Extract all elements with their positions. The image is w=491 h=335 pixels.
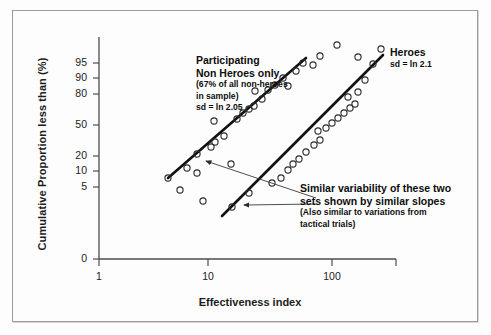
data-point	[335, 115, 341, 121]
annotation-similar-line3: (Also similar to variations from	[300, 207, 451, 219]
annotation-similar-line4: tactical trials)	[300, 219, 451, 231]
y-tick-label-90: 90	[57, 71, 87, 83]
data-point	[221, 133, 227, 139]
y-tick-marks	[93, 63, 99, 259]
data-point	[293, 68, 299, 74]
data-point	[200, 198, 206, 204]
y-tick-label-10: 10	[57, 164, 87, 176]
data-point	[317, 53, 323, 59]
data-point	[228, 161, 234, 167]
data-point	[323, 125, 329, 131]
data-point	[290, 161, 296, 167]
data-point	[310, 62, 316, 68]
y-tick-label-5: 5	[57, 180, 87, 192]
data-point	[296, 156, 302, 162]
y-tick-label-95: 95	[57, 56, 87, 68]
data-point	[329, 120, 335, 126]
data-point	[194, 170, 200, 176]
data-point	[355, 54, 361, 60]
data-point	[311, 142, 317, 148]
x-tick-marks	[99, 259, 396, 266]
x-tick-label-1: 1	[79, 270, 119, 282]
annotation-non-heroes-line1: Participating	[196, 54, 288, 67]
data-point	[345, 94, 351, 100]
data-point	[285, 167, 291, 173]
annotation-non-heroes-line4: in sample)	[196, 91, 288, 103]
annotation-non-heroes-line2: Non Heroes only	[196, 67, 288, 80]
data-point	[334, 42, 340, 48]
x-axis-title: Effectiveness index	[150, 296, 350, 308]
figure-container: Cumulative Proportion less than (%) Effe…	[0, 0, 491, 335]
annotation-similar-variability: Similar variability of these two sets sh…	[300, 182, 451, 230]
data-point	[212, 139, 218, 145]
annotation-non-heroes: Participating Non Heroes only (67% of al…	[196, 54, 288, 114]
annotation-non-heroes-line3: (67% of all non-heroes	[196, 79, 288, 91]
data-point	[303, 149, 309, 155]
x-tick-label-10: 10	[188, 270, 228, 282]
y-tick-label-50: 50	[57, 118, 87, 130]
y-axis-title: Cumulative Proportion less than (%)	[36, 49, 48, 259]
data-point	[315, 128, 321, 134]
annotation-similar-line1: Similar variability of these two	[300, 182, 451, 195]
x-tick-label-100: 100	[312, 270, 352, 282]
data-point	[378, 46, 384, 52]
annotation-heroes-sd: sd = ln 2.1	[390, 59, 432, 71]
annotation-heroes-line1: Heroes	[390, 46, 432, 59]
data-point	[341, 110, 347, 116]
annotation-heroes: Heroes sd = ln 2.1	[390, 46, 432, 70]
data-point	[184, 165, 190, 171]
annotation-similar-line2: sets shown by similar slopes	[300, 195, 451, 208]
data-point	[362, 77, 368, 83]
y-tick-label-0: 0	[57, 252, 87, 264]
annotation-non-heroes-sd: sd = ln 2.05	[196, 102, 288, 114]
data-point	[278, 175, 284, 181]
y-tick-label-20: 20	[57, 149, 87, 161]
data-point	[177, 187, 183, 193]
y-tick-label-80: 80	[57, 87, 87, 99]
data-point	[352, 101, 358, 107]
data-point	[355, 89, 361, 95]
data-point	[317, 137, 323, 143]
data-point	[211, 118, 217, 124]
